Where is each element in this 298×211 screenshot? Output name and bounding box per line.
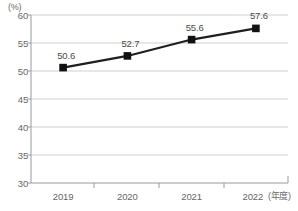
line-chart: (%) 60 55 50 45 40 35 30 xyxy=(0,0,298,211)
data-value-label: 52.7 xyxy=(122,39,140,49)
data-value-label: 50.6 xyxy=(57,51,75,61)
plot-area xyxy=(0,0,298,211)
x-tick-label-2019: 2019 xyxy=(53,192,74,202)
x-axis-ticks xyxy=(94,183,224,188)
x-tick-label-2022: 2022 xyxy=(243,192,264,202)
x-axis-unit-label: (年度) xyxy=(268,192,291,201)
y-axis-ticks xyxy=(27,15,31,183)
x-tick-label-2021: 2021 xyxy=(181,192,202,202)
x-tick-label-2020: 2020 xyxy=(117,192,138,202)
data-marker xyxy=(252,25,260,33)
data-line xyxy=(63,28,256,67)
data-value-label: 55.6 xyxy=(186,23,204,33)
data-marker xyxy=(59,64,67,72)
data-marker xyxy=(124,52,132,60)
gridlines xyxy=(31,15,288,155)
data-value-label: 57.6 xyxy=(250,11,268,21)
data-marker xyxy=(188,36,196,44)
